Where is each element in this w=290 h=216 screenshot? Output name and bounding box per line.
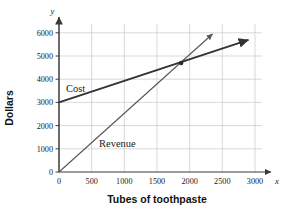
y-tick-label: 0 (49, 168, 53, 177)
break-even-point-marker (179, 61, 183, 65)
x-axis-title: Tubes of toothpaste (107, 193, 207, 205)
revenue-series-label: Revenue (99, 138, 136, 149)
y-tick-label: 4000 (37, 75, 53, 84)
x-tick-label: 2500 (214, 177, 230, 186)
x-axis-letter: x (274, 176, 279, 186)
y-axis-title: Dollars (3, 90, 15, 126)
y-tick-label: 2000 (37, 122, 53, 131)
x-tick-label: 3000 (247, 177, 263, 186)
cost-series-label: Cost (66, 83, 85, 94)
x-tick-label: 500 (86, 177, 98, 186)
y-tick-label: 1000 (37, 145, 53, 154)
y-tick-label: 6000 (37, 29, 53, 38)
x-tick-label: 1500 (149, 177, 165, 186)
y-tick-label: 5000 (37, 52, 53, 61)
x-tick-label: 2000 (182, 177, 198, 186)
x-tick-label: 1000 (116, 177, 132, 186)
y-axis-letter: y (50, 6, 55, 16)
chart-canvas: 0 1000 2000 3000 4000 5000 6000 0 500 10… (0, 0, 290, 216)
chart-figure: 0 1000 2000 3000 4000 5000 6000 0 500 10… (0, 0, 290, 216)
x-tick-label: 0 (57, 177, 61, 186)
y-tick-label: 3000 (37, 98, 53, 107)
